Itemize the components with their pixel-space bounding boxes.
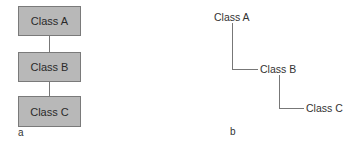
class-b-label: Class B bbox=[31, 61, 69, 73]
class-a-box: Class A bbox=[18, 6, 81, 36]
tree-class-a: Class A bbox=[214, 11, 250, 23]
panel-a-label: a bbox=[18, 127, 24, 138]
class-b-box: Class B bbox=[18, 52, 81, 82]
class-c-label: Class C bbox=[30, 106, 69, 118]
tree-connector-b-vertical bbox=[279, 75, 280, 108]
tree-connector-a-vertical bbox=[232, 23, 233, 69]
tree-class-b: Class B bbox=[260, 63, 296, 75]
tree-class-c: Class C bbox=[306, 102, 343, 114]
class-c-box: Class C bbox=[18, 96, 81, 127]
tree-connector-a-horizontal bbox=[232, 69, 258, 70]
connector-b-c bbox=[49, 82, 50, 96]
panel-b-label: b bbox=[230, 126, 236, 137]
class-a-label: Class A bbox=[31, 15, 68, 27]
connector-a-b bbox=[49, 36, 50, 52]
tree-connector-b-horizontal bbox=[279, 108, 304, 109]
